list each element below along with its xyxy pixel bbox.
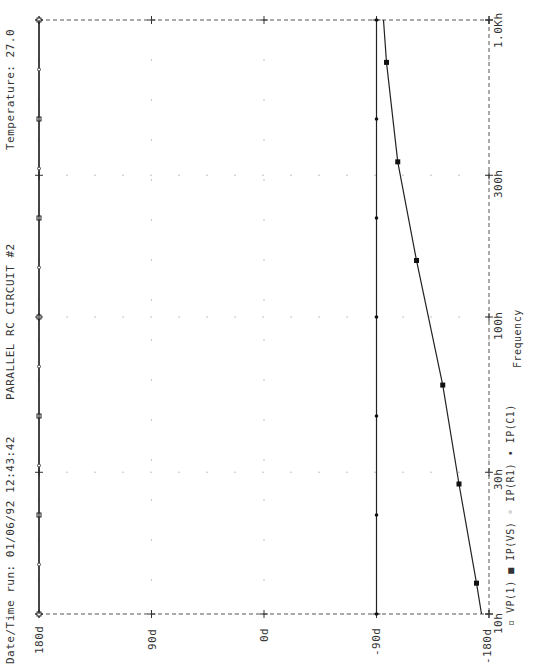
series-ipc1 bbox=[375, 18, 379, 616]
y-tick-90: 90d bbox=[146, 629, 159, 650]
legend-label-vp1: VP(1) bbox=[505, 580, 516, 613]
grid bbox=[38, 19, 489, 614]
legend-label-ipvs: IP(VS) bbox=[505, 522, 516, 561]
legend-marker-diamond-icon: • bbox=[505, 450, 516, 457]
y-tick-neg90: -90d bbox=[370, 628, 383, 657]
temperature-label: Temperature: 27.0 bbox=[4, 29, 17, 150]
phase-plot bbox=[0, 0, 533, 668]
legend-marker-circle-icon: ◦ bbox=[505, 509, 516, 516]
series-ipvs bbox=[384, 20, 482, 614]
legend-marker-filled-square-icon: ■ bbox=[505, 567, 516, 574]
x-tick-10h: 10h bbox=[492, 613, 505, 634]
x-tick-300h: 300h bbox=[492, 170, 505, 199]
x-tick-100h: 100h bbox=[492, 312, 505, 341]
y-tick-0: 0d bbox=[258, 628, 271, 642]
x-axis-label: Frequency bbox=[512, 309, 523, 368]
legend-label-ipr1: IP(R1) bbox=[505, 463, 516, 502]
legend-label-ipc1: IP(C1) bbox=[505, 404, 516, 443]
x-tick-30h: 30h bbox=[492, 469, 505, 490]
series-lines bbox=[37, 18, 482, 616]
axis-ticks bbox=[35, 16, 493, 618]
legend-marker-open-square-icon: ▫ bbox=[505, 619, 516, 626]
y-tick-180: 180d bbox=[33, 626, 46, 655]
legend: ▫ VP(1) ■ IP(VS) ◦ IP(R1) • IP(C1) bbox=[505, 404, 516, 626]
plot-frame bbox=[39, 20, 489, 614]
datetime-label: Date/Time run: 01/06/92 12:43:42 bbox=[4, 436, 17, 664]
x-tick-1kh: 1.0Kh bbox=[492, 12, 505, 48]
chart-title: PARALLEL RC CIRCUIT #2 bbox=[4, 243, 17, 400]
